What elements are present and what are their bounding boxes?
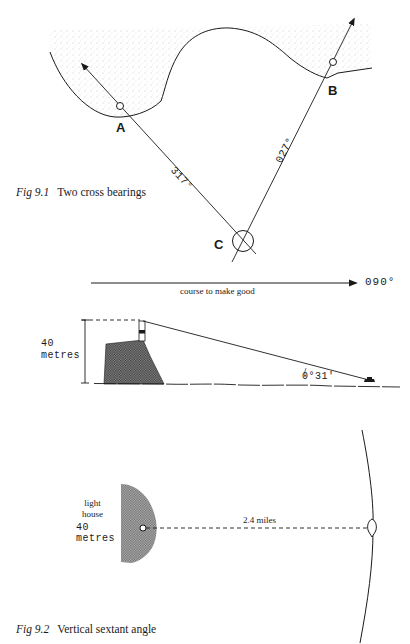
plan-view xyxy=(121,430,376,643)
course-label: course to make good xyxy=(180,287,255,296)
course-heading-label: 090° xyxy=(365,277,395,288)
landmark-b-label: B xyxy=(328,84,337,97)
lighthouse-elevation xyxy=(139,321,145,341)
sea-level-line xyxy=(94,384,400,388)
landmark-a-label: A xyxy=(116,121,125,134)
plan-height-unit: metres xyxy=(76,533,115,544)
elevation-height-value: 40 xyxy=(41,338,80,350)
figure-2-title: Vertical sextant angle xyxy=(57,623,156,635)
fix-c-label: C xyxy=(214,238,223,251)
figure-2-caption: Fig 9.2Vertical sextant angle xyxy=(16,623,156,635)
distance-label: 2.4 miles xyxy=(243,516,276,525)
boat-plan xyxy=(368,519,377,537)
plan-object-line2: house xyxy=(82,509,103,520)
sight-line xyxy=(143,321,369,380)
land-area xyxy=(50,24,372,117)
landmark-b-marker xyxy=(330,59,337,66)
figure-1-number: Fig 9.1 xyxy=(16,186,49,198)
sextant-angle-label: 0°31' xyxy=(302,372,335,382)
plan-object-label: light house xyxy=(82,498,103,520)
diagram-canvas: A B C 317° 027° Fig 9.1Two cross bearing… xyxy=(0,0,410,644)
figure-1-title: Two cross bearings xyxy=(57,186,146,198)
diagram-svg xyxy=(0,0,410,644)
cliff xyxy=(104,340,164,384)
plan-height-value: 40 xyxy=(76,522,115,533)
figure-2-number: Fig 9.2 xyxy=(16,623,49,635)
lighthouse-headland xyxy=(121,484,157,563)
boat-elevation xyxy=(364,377,375,382)
landmark-a-marker xyxy=(117,103,124,110)
bearing-line-a xyxy=(82,64,256,254)
lighthouse-position-marker xyxy=(140,525,146,531)
elevation-view xyxy=(81,320,400,387)
figure-9-1 xyxy=(50,19,372,262)
plan-height-label: 40 metres xyxy=(76,522,115,544)
elevation-height-unit: metres xyxy=(41,350,80,362)
figure-1-caption: Fig 9.1Two cross bearings xyxy=(16,186,146,198)
plan-object-line1: light xyxy=(82,498,103,509)
elevation-height-label: 40 metres xyxy=(41,338,80,362)
